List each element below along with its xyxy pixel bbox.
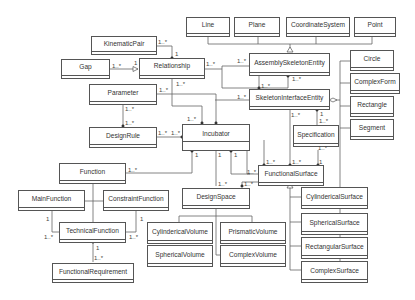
class-parameter: Parameter [89,84,157,105]
class-name: TechnicalFunction [60,223,125,239]
class-name: SphericalVolume [148,246,212,263]
multiplicity-label: 1..* [125,106,134,113]
multiplicity-label: 1..* [176,81,185,88]
class-gap: Gap [61,59,110,79]
class-name: RectangularSurface [302,238,367,255]
class-prismatic-volume: PrismaticVolume [220,222,286,244]
class-constraint-function: ConstraintFunction [103,190,169,211]
multiplicity-label: 1 [320,111,323,118]
multiplicity-label: 1..* [94,255,103,262]
class-name: Rectangle [351,97,393,113]
multiplicity-label: 1 [319,159,322,166]
class-name: PrismaticVolume [221,223,285,240]
multiplicity-label: 1..* [319,118,328,125]
class-technical-function: TechnicalFunction [59,222,126,243]
class-name: ComplexSurface [302,262,367,279]
class-complex-form: ComplexForm [350,73,400,94]
class-name: Plane [235,18,279,32]
multiplicity-label: 1..* [112,63,121,70]
class-name: ComplexVolume [221,246,285,263]
class-complex-volume: ComplexVolume [220,245,286,267]
multiplicity-label: 1 [218,152,221,159]
class-name: FunctionalSurface [259,166,323,182]
multiplicity-label: 1..* [159,87,168,94]
class-function: Function [59,163,126,184]
multiplicity-label: 1..* [291,112,300,119]
class-name: CylindericalSurface [302,188,367,205]
class-name: AssemblySkeletonEntity [250,54,329,72]
class-name: DesignSpace [183,189,249,205]
class-name: ComplexForm [351,74,399,90]
multiplicity-label: 1 [46,216,49,223]
class-incubator: Incubator [182,124,250,151]
multiplicity-label: 1..* [125,120,134,127]
multiplicity-label: 1 [175,51,178,58]
class-name: Specification [294,126,338,143]
class-name: Segment [351,120,393,136]
class-name: Gap [62,60,109,74]
multiplicity-label: 1..* [247,169,256,176]
multiplicity-label: 1..* [318,145,327,152]
multiplicity-label: 1..* [266,159,275,166]
class-specification: Specification [293,125,339,147]
class-cylinderical-volume: CylindericalVolume [147,222,213,244]
class-name: Parameter [90,85,156,101]
multiplicity-label: 1..* [158,130,167,137]
class-main-function: MainFunction [18,190,85,211]
multiplicity-label: 1..* [158,39,167,46]
uml-class-diagram: Line Plane CoordinateSystem Point Kinema… [0,0,415,300]
multiplicity-label: 1..* [129,234,138,241]
class-spherical-surface: SphericalSurface [301,213,368,235]
class-rectangular-surface: RectangularSurface [301,237,368,259]
multiplicity-label: 1..* [237,58,246,65]
multiplicity-label: 1..* [244,181,253,188]
multiplicity-label: 1..* [44,234,53,241]
class-name: Circle [351,51,393,67]
class-name: SkeletonInterfaceEntity [250,90,329,106]
class-name: Function [60,164,125,180]
class-functional-surface: FunctionalSurface [258,165,324,186]
multiplicity-label: 1..* [218,181,227,188]
multiplicity-label: 1 [195,152,198,159]
class-coordinate-system: CoordinateSystem [286,17,350,37]
class-name: CoordinateSystem [287,18,349,32]
class-name: MainFunction [19,191,84,207]
multiplicity-label: 1..* [171,130,180,137]
class-name: ConstraintFunction [104,191,168,207]
class-segment: Segment [350,119,394,140]
class-plane: Plane [234,17,280,37]
multiplicity-label: 1..* [261,83,270,90]
class-name: Incubator [183,125,249,142]
class-name: CylindericalVolume [148,223,212,240]
multiplicity-label: 1..* [292,76,301,83]
multiplicity-label: 1..* [237,94,246,101]
class-line: Line [186,17,230,37]
multiplicity-label: 1 [134,60,137,67]
class-point: Point [354,17,396,37]
class-rectangle: Rectangle [350,96,394,117]
class-name: FunctionalRequirement [53,264,133,280]
class-design-space: DesignSpace [182,188,250,209]
class-circle: Circle [350,50,394,71]
class-cylinderical-surface: CylindericalSurface [301,187,368,209]
class-spherical-volume: SphericalVolume [147,245,213,267]
class-name: Relationship [140,59,204,73]
class-skeleton-interface-entity: SkeletonInterfaceEntity [249,89,330,110]
multiplicity-label: 1..* [187,116,196,123]
class-name: DesignRule [90,128,156,144]
multiplicity-label: 1..* [292,159,301,166]
class-name: Point [355,18,395,32]
class-name: KinematicPair [92,37,156,51]
class-functional-requirement: FunctionalRequirement [52,263,134,283]
multiplicity-label: 1..* [206,61,215,68]
class-assembly-skeleton-entity: AssemblySkeletonEntity [249,53,330,76]
class-relationship: Relationship [139,58,205,79]
multiplicity-label: 1 [140,216,143,223]
multiplicity-label: 1 [234,152,237,159]
class-name: SphericalSurface [302,214,367,231]
class-name: Line [187,18,229,32]
class-complex-surface: ComplexSurface [301,261,368,283]
multiplicity-label: 1..* [128,167,137,174]
multiplicity-label: 1 [96,245,99,252]
class-design-rule: DesignRule [89,127,157,148]
